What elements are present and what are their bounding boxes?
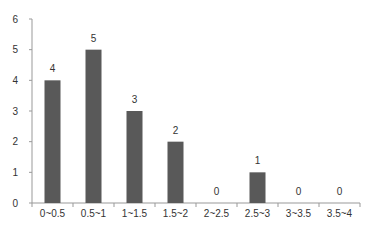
y-tick-label: 6 (12, 14, 18, 25)
bar (250, 172, 266, 203)
x-axis: 0~0.50.5~11~1.51.5~22~2.52.5~33~3.53.5~4 (32, 203, 360, 219)
x-tick-label: 2.5~3 (245, 208, 271, 219)
x-tick-label: 3~3.5 (286, 208, 312, 219)
data-label: 3 (132, 94, 138, 105)
bars: 45320100 (45, 33, 343, 203)
data-label: 0 (214, 186, 220, 197)
data-label: 5 (91, 33, 97, 44)
x-tick-label: 0~0.5 (40, 208, 66, 219)
data-label: 2 (173, 125, 179, 136)
y-tick-label: 3 (12, 106, 18, 117)
y-tick-label: 0 (12, 198, 18, 209)
x-tick-label: 1.5~2 (163, 208, 189, 219)
data-label: 0 (337, 186, 343, 197)
x-tick-label: 3.5~4 (327, 208, 353, 219)
y-tick-label: 5 (12, 44, 18, 55)
data-label: 0 (296, 186, 302, 197)
bar-chart: 0123456 0~0.50.5~11~1.51.5~22~2.52.5~33~… (0, 0, 370, 233)
x-tick-label: 2~2.5 (204, 208, 230, 219)
bar (45, 80, 61, 203)
bar (127, 111, 143, 203)
y-tick-label: 2 (12, 136, 18, 147)
bar (168, 142, 184, 203)
y-tick-label: 1 (12, 167, 18, 178)
y-axis: 0123456 (12, 14, 32, 209)
y-tick-label: 4 (12, 75, 18, 86)
x-tick-label: 1~1.5 (122, 208, 148, 219)
data-label: 4 (50, 63, 56, 74)
x-tick-label: 0.5~1 (81, 208, 107, 219)
data-label: 1 (255, 155, 261, 166)
bar (86, 50, 102, 203)
